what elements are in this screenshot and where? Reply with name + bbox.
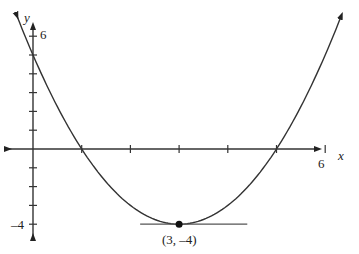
y-axis-label: y <box>22 10 30 25</box>
y-tick-label-6: 6 <box>40 27 47 42</box>
parabola-curve <box>17 16 341 225</box>
axis-ticks <box>29 36 325 224</box>
x-axis-label: x <box>337 148 344 163</box>
parabola-chart: y 6 –4 6 x (3, –4) <box>0 0 359 254</box>
y-tick-label-neg4: –4 <box>10 217 25 232</box>
vertex-point <box>176 221 183 228</box>
x-tick-label-6: 6 <box>318 156 325 171</box>
vertex-label: (3, –4) <box>162 232 197 247</box>
